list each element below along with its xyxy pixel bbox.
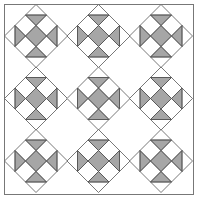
quilt-block	[130, 67, 193, 130]
quilt-block	[130, 5, 193, 68]
quilt-diagram	[0, 0, 198, 203]
blocks-group	[5, 5, 193, 193]
quilt-block	[5, 67, 68, 130]
quilt-block	[5, 130, 68, 193]
quilt-block	[67, 67, 130, 130]
quilt-block	[5, 5, 68, 68]
quilt-block	[130, 130, 193, 193]
quilt-block	[67, 130, 130, 193]
quilt-block	[67, 5, 130, 68]
